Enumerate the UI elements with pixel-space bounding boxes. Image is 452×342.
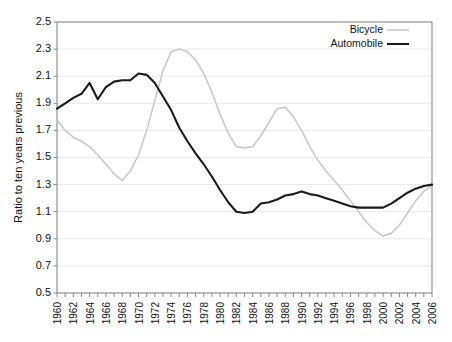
x-axis-tick-label: 2006: [427, 302, 438, 325]
x-axis-tick-label: 1996: [345, 302, 356, 325]
y-axis-tick-label: 0.9: [36, 232, 51, 244]
y-axis-tick-label: 1.1: [36, 205, 51, 217]
line-chart: 2.52.32.11.91.71.51.31.10.90.70.5 196019…: [0, 0, 452, 342]
series-line-automobile: [57, 73, 432, 213]
x-axis-tick-label: 1970: [134, 302, 145, 325]
legend-label-automobile: Automobile: [330, 37, 383, 49]
chart-legend: BicycleAutomobile: [330, 23, 409, 49]
x-axis-tick-label: 2000: [378, 302, 389, 325]
legend-label-bicycle: Bicycle: [350, 23, 383, 35]
x-axis-tick-label: 1998: [362, 302, 373, 325]
y-axis-ticks: [54, 22, 58, 293]
y-axis-tick-label: 0.7: [36, 259, 51, 271]
y-axis-tick-label: 1.9: [36, 96, 51, 108]
x-axis-tick-label: 1960: [52, 302, 63, 325]
y-axis-tick-label: 2.5: [36, 15, 51, 27]
y-axis-title: Ratio to ten years previous: [12, 92, 24, 223]
x-axis-tick-label: 1962: [68, 302, 79, 325]
x-axis-tick-label: 1992: [313, 302, 324, 325]
y-axis-tick-label: 2.3: [36, 42, 51, 54]
y-axis-tick-label: 1.7: [36, 123, 51, 135]
y-axis-labels: 2.52.32.11.91.71.51.31.10.90.70.5: [36, 15, 51, 298]
x-axis-tick-label: 1976: [182, 302, 193, 325]
y-axis-tick-label: 1.5: [36, 150, 51, 162]
x-axis-tick-label: 1980: [215, 302, 226, 325]
y-axis-tick-label: 1.3: [36, 178, 51, 190]
x-axis-ticks: [57, 293, 432, 297]
x-axis-tick-label: 1986: [264, 302, 275, 325]
x-axis-tick-label: 1964: [85, 302, 96, 325]
x-axis-tick-label: 1978: [199, 302, 210, 325]
x-axis-tick-label: 1982: [231, 302, 242, 325]
x-axis-tick-label: 1984: [248, 302, 259, 325]
x-axis-tick-label: 1990: [297, 302, 308, 325]
x-axis-tick-label: 1966: [101, 302, 112, 325]
x-axis-tick-label: 1972: [150, 302, 161, 325]
x-axis-tick-label: 2004: [411, 302, 422, 325]
x-axis-labels: 1960196219641966196819701972197419761978…: [52, 302, 438, 325]
y-axis-tick-label: 0.5: [36, 286, 51, 298]
data-series: [57, 49, 432, 236]
chart-container: 2.52.32.11.91.71.51.31.10.90.70.5 196019…: [0, 0, 452, 342]
x-axis-tick-label: 1988: [280, 302, 291, 325]
x-axis-tick-label: 1994: [329, 302, 340, 325]
x-axis-tick-label: 1968: [117, 302, 128, 325]
x-axis-tick-label: 1974: [166, 302, 177, 325]
y-axis-tick-label: 2.1: [36, 69, 51, 81]
x-axis-tick-label: 2002: [394, 302, 405, 325]
